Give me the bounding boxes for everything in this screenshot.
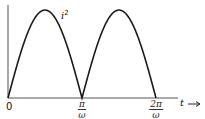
t-arrow-icon xyxy=(188,102,200,107)
x-axis-label: t xyxy=(180,98,184,108)
fraction-numerator: π xyxy=(78,99,86,110)
fraction-numerator: 2π xyxy=(149,99,163,110)
fraction-denominator: ω xyxy=(152,110,159,119)
series-label-exponent: 2 xyxy=(64,9,68,17)
x-tick-label-pi-over-omega: π ω xyxy=(78,99,86,119)
chart-canvas xyxy=(0,0,205,119)
x-tick-label-2pi-over-omega: 2π ω xyxy=(149,99,163,119)
x-tick-label-0: 0 xyxy=(6,102,12,112)
series-label-i-squared: i2 xyxy=(61,10,69,21)
i-squared-curve xyxy=(8,10,156,98)
fraction-denominator: ω xyxy=(78,110,85,119)
